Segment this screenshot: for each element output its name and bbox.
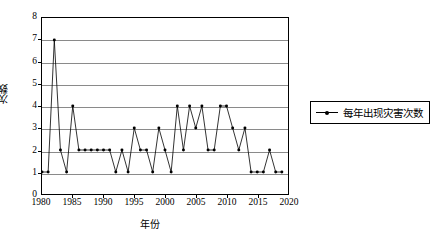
- y-tick-label: 7: [23, 34, 37, 44]
- data-point-marker: [102, 149, 105, 152]
- data-point-marker: [256, 171, 259, 174]
- y-tick-label: 3: [23, 123, 37, 133]
- data-point-marker: [90, 149, 93, 152]
- data-point-marker: [207, 149, 210, 152]
- data-point-marker: [170, 171, 173, 174]
- x-tick-label: 2000: [148, 198, 182, 208]
- x-tick-mark: [227, 195, 228, 198]
- x-tick-label: 2020: [272, 198, 306, 208]
- x-tick-label: 2015: [241, 198, 275, 208]
- data-point-marker: [225, 105, 228, 108]
- y-axis-title: 次数: [0, 84, 11, 104]
- plot-area: [41, 17, 289, 195]
- x-tick-label: 1985: [55, 198, 89, 208]
- data-point-marker: [139, 149, 142, 152]
- chart-figure: 次数 012345678 198019851990199520002005201…: [0, 0, 441, 245]
- data-point-marker: [176, 105, 179, 108]
- data-point-marker: [219, 105, 222, 108]
- data-point-marker: [84, 149, 87, 152]
- data-point-marker: [157, 127, 160, 130]
- y-tick-label: 4: [23, 101, 37, 111]
- data-point-marker: [274, 171, 277, 174]
- data-point-marker: [182, 149, 185, 152]
- data-point-marker: [145, 149, 148, 152]
- y-tick-label: 1: [23, 168, 37, 178]
- data-point-marker: [151, 171, 154, 174]
- data-point-marker: [59, 149, 62, 152]
- data-point-marker: [65, 171, 68, 174]
- y-tick-label: 6: [23, 57, 37, 67]
- data-point-marker: [262, 171, 265, 174]
- data-point-marker: [194, 127, 197, 130]
- series-polyline: [42, 40, 282, 172]
- x-tick-mark: [72, 195, 73, 198]
- data-point-marker: [120, 149, 123, 152]
- x-tick-label: 1990: [86, 198, 120, 208]
- x-tick-mark: [165, 195, 166, 198]
- data-point-marker: [280, 171, 283, 174]
- x-axis-title: 年份: [140, 216, 160, 231]
- data-point-marker: [96, 149, 99, 152]
- data-point-marker: [200, 105, 203, 108]
- data-point-marker: [268, 149, 271, 152]
- data-point-marker: [188, 105, 191, 108]
- y-tick-label: 2: [23, 146, 37, 156]
- data-point-marker: [243, 127, 246, 130]
- data-point-marker: [71, 105, 74, 108]
- data-point-marker: [53, 39, 56, 42]
- data-point-marker: [237, 149, 240, 152]
- legend-entry-label: 每年出现灾害次数: [343, 105, 423, 120]
- x-tick-label: 2010: [210, 198, 244, 208]
- y-tick-label: 8: [23, 12, 37, 22]
- x-tick-mark: [258, 195, 259, 198]
- data-point-marker: [231, 127, 234, 130]
- legend-line-marker-icon: [316, 108, 338, 117]
- x-tick-label: 1995: [117, 198, 151, 208]
- x-tick-mark: [196, 195, 197, 198]
- data-point-marker: [213, 149, 216, 152]
- chart-legend: 每年出现灾害次数: [310, 101, 430, 124]
- data-point-marker: [114, 171, 117, 174]
- x-tick-mark: [103, 195, 104, 198]
- data-point-marker: [133, 127, 136, 130]
- x-tick-label: 1980: [24, 198, 58, 208]
- data-point-marker: [164, 149, 167, 152]
- data-point-marker: [77, 149, 80, 152]
- data-series-line: [42, 18, 288, 194]
- data-point-marker: [47, 171, 50, 174]
- y-tick-label: 5: [23, 79, 37, 89]
- data-point-marker: [108, 149, 111, 152]
- x-tick-label: 2005: [179, 198, 213, 208]
- data-point-marker: [42, 171, 43, 174]
- data-point-marker: [127, 171, 130, 174]
- data-point-marker: [250, 171, 253, 174]
- x-tick-mark: [134, 195, 135, 198]
